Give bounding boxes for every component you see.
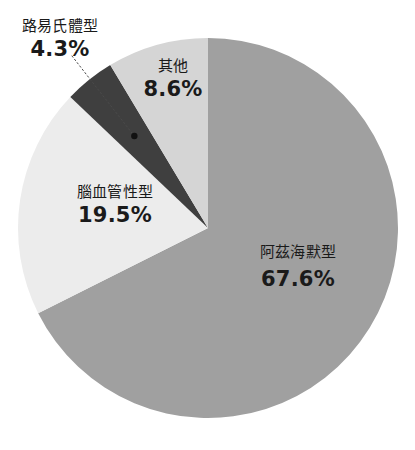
pie-chart-canvas (0, 0, 415, 450)
leader-dot-lewy (131, 133, 137, 139)
pie-chart: 路易氏體型 4.3% 其他 8.6% 腦血管性型 19.5% 阿茲海默型 67.… (0, 0, 415, 450)
